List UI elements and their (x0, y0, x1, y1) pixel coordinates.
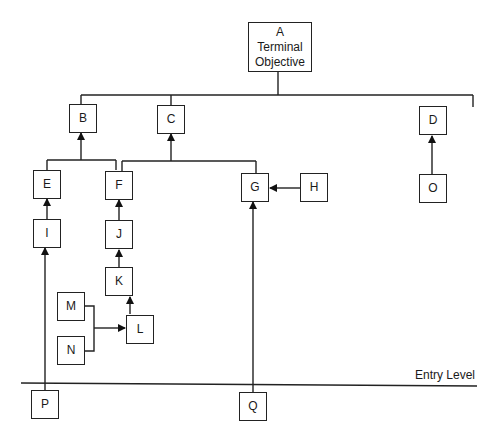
node-e: E (33, 170, 61, 199)
node-d: D (419, 106, 447, 135)
node-p: P (31, 390, 59, 419)
node-m: M (57, 292, 85, 321)
node-g: G (241, 173, 269, 202)
node-e-label: E (43, 177, 51, 192)
node-a-label-line3: Objective (255, 55, 305, 70)
node-d-label: D (429, 113, 438, 128)
node-c: C (157, 105, 185, 134)
node-l: L (126, 315, 154, 344)
node-o: O (419, 174, 447, 203)
node-n-label: N (67, 343, 76, 358)
node-k-label: K (115, 274, 123, 289)
entry-level-label: Entry Level (415, 368, 475, 382)
node-b-label: B (79, 111, 87, 126)
node-h-label: H (310, 180, 319, 195)
node-f: F (105, 171, 133, 200)
node-l-label: L (137, 322, 144, 337)
node-b: B (69, 104, 97, 133)
node-h: H (300, 173, 328, 202)
node-o-label: O (428, 181, 437, 196)
node-k: K (105, 267, 133, 296)
node-n: N (57, 336, 85, 365)
node-j: J (105, 220, 133, 249)
node-q-label: Q (248, 399, 257, 414)
node-j-label: J (116, 227, 122, 242)
node-g-label: G (250, 180, 259, 195)
node-p-label: P (41, 397, 49, 412)
node-c-label: C (167, 112, 176, 127)
node-i: I (33, 219, 61, 248)
node-a-label-letter: A (276, 25, 284, 40)
node-i-label: I (45, 226, 48, 241)
node-a-label-line2: Terminal (257, 40, 302, 55)
node-f-label: F (115, 178, 122, 193)
node-q: Q (239, 392, 267, 421)
node-m-label: M (66, 299, 76, 314)
node-a-terminal-objective: A Terminal Objective (248, 22, 312, 72)
